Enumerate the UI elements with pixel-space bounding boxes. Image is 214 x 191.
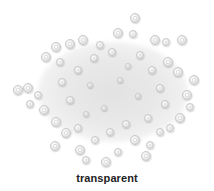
bead [56, 58, 64, 66]
bead [74, 124, 82, 132]
bead [135, 93, 141, 99]
bead [96, 41, 104, 49]
bead [163, 57, 173, 67]
bead [106, 128, 114, 136]
bead [65, 39, 75, 49]
bead [117, 77, 123, 83]
bead [51, 42, 61, 52]
bead [75, 145, 85, 155]
product-swatch: transparent [0, 0, 214, 191]
bead [66, 96, 74, 104]
bead [148, 66, 156, 74]
bead [74, 66, 82, 74]
bead-pile-image [0, 0, 214, 170]
bead [23, 83, 33, 93]
bead [39, 105, 49, 115]
bead [61, 128, 71, 138]
bead [83, 111, 89, 117]
bead [182, 90, 192, 100]
bead [113, 28, 123, 38]
bead [129, 30, 137, 38]
bead [91, 136, 99, 144]
bead [125, 63, 131, 69]
bead [144, 114, 152, 122]
bead [186, 103, 194, 111]
bead [130, 135, 140, 145]
bead [156, 128, 164, 136]
bead [166, 124, 174, 132]
bead [141, 151, 151, 161]
bead [26, 100, 34, 108]
bead [13, 85, 23, 95]
bead [114, 148, 122, 156]
bead [78, 35, 88, 45]
bead [175, 113, 185, 123]
bead [150, 35, 160, 45]
bead [41, 52, 51, 62]
bead [101, 157, 111, 167]
bead [189, 75, 199, 85]
bead [146, 141, 154, 149]
bead [122, 120, 130, 128]
bead [130, 13, 140, 23]
bead [51, 117, 61, 127]
bead [90, 54, 98, 62]
bead [87, 82, 93, 88]
bead [101, 105, 107, 111]
bead [162, 38, 170, 46]
bead [82, 156, 90, 164]
bead [161, 100, 169, 108]
bead [136, 51, 144, 59]
bead [34, 91, 42, 99]
bead [156, 84, 164, 92]
bead [58, 78, 66, 86]
bead [173, 67, 183, 77]
color-caption: transparent [0, 172, 214, 184]
bead [177, 35, 187, 45]
bead [108, 48, 116, 56]
bead [50, 141, 60, 151]
